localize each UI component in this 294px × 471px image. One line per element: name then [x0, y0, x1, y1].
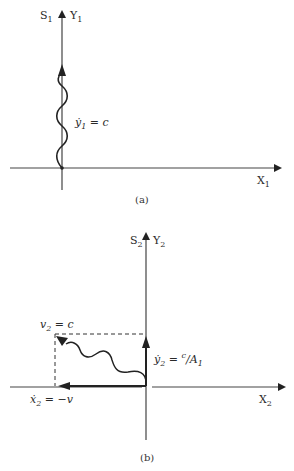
- diagram-b: [10, 234, 284, 440]
- caption-b: (b): [140, 452, 154, 463]
- velocity-y1-label: ẏ1 = c: [75, 116, 109, 131]
- xdot-arrowhead: [58, 382, 70, 390]
- arrowhead-a: [58, 64, 66, 76]
- y1-label: Y1: [70, 9, 82, 24]
- caption-a: (a): [135, 194, 149, 205]
- origin-dot-a: [60, 166, 64, 170]
- y2-label: Y2: [153, 234, 165, 249]
- x2-label: X2: [259, 393, 272, 408]
- arrowhead-b: [56, 336, 68, 346]
- ydot2-label: ẏ2 = c/A1: [154, 351, 203, 368]
- diagram-a: [10, 12, 280, 190]
- ydot-arrowhead: [142, 336, 150, 348]
- x1-label: X1: [257, 174, 270, 189]
- s1-label: S1: [40, 9, 53, 24]
- v2-label: v2 = c: [40, 318, 74, 333]
- wavy-light-path-b: [66, 342, 146, 383]
- xdot2-label: ẋ2 = −v: [30, 393, 73, 408]
- s2-label: S2: [130, 234, 143, 249]
